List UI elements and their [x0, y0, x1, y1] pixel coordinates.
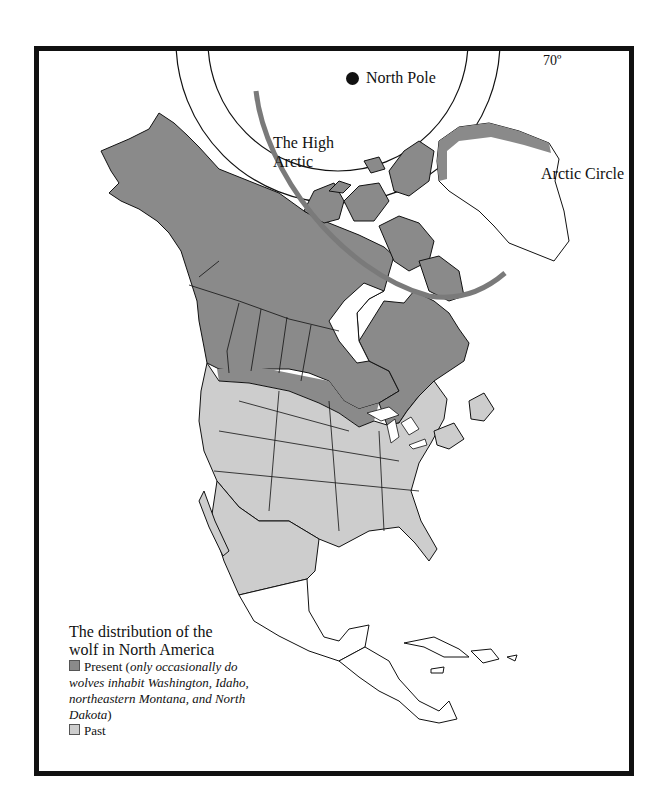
- caribbean-islands: [404, 637, 517, 673]
- alaska-canada-present-region: [101, 113, 399, 409]
- north-pole-label: North Pole: [366, 69, 436, 87]
- arctic-circle-label: Arctic Circle: [541, 165, 624, 183]
- legend-title-line2: wolf in North America: [69, 641, 269, 659]
- high-arctic-label: The High Arctic: [273, 133, 353, 171]
- past-swatch-icon: [69, 724, 80, 735]
- map-frame: 70º North Pole The High Arctic Arctic Ci…: [34, 46, 634, 776]
- newfoundland-past: [469, 393, 494, 421]
- legend-item-past: Past: [69, 723, 269, 739]
- legend-title-line1: The distribution of the: [69, 623, 269, 641]
- north-pole-marker-icon: [346, 72, 359, 85]
- present-swatch-icon: [69, 660, 80, 671]
- legend-past-label: Past: [84, 723, 106, 738]
- central-america: [339, 647, 457, 723]
- legend-paren-close: ): [107, 707, 111, 722]
- legend-item-present: Present (only occasionally do wolves inh…: [69, 659, 269, 723]
- legend-present-label: Present: [84, 659, 122, 674]
- latitude-70-label: 70º: [543, 53, 561, 69]
- map-legend: The distribution of the wolf in North Am…: [69, 623, 269, 739]
- greenland: [437, 123, 569, 261]
- legend-paren-open: (: [122, 659, 130, 674]
